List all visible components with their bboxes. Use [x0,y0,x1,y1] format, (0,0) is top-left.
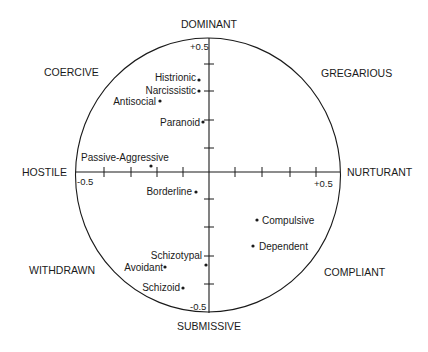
point-histrionic [197,78,200,81]
point-schizoid [181,286,184,289]
circumplex-circle [76,38,341,312]
label-passive-aggressive: Passive-Aggressive [81,152,169,163]
point-antisocial [158,99,161,102]
tick-label-x-max: +0.5 [314,178,333,189]
octant-label-coercive: COERCIVE [44,66,99,78]
octant-label-withdrawn: WITHDRAWN [29,264,95,276]
label-schizoid: Schizoid [142,282,180,293]
label-paranoid: Paranoid [160,117,200,128]
point-paranoid [201,120,204,123]
tick-label-y-min: -0.5 [190,301,206,312]
label-antisocial: Antisocial [113,96,156,107]
axis-label-nurturant: NURTURANT [347,166,413,178]
label-histrionic: Histrionic [155,72,196,83]
label-avoidant: Avoidant [124,262,163,273]
tick-label-y-max: +0.5 [190,41,209,52]
point-borderline [194,190,197,193]
point-passive-aggressive [149,164,152,167]
octant-label-compliant: COMPLIANT [324,266,386,278]
label-compulsive: Compulsive [262,215,315,226]
circumplex-diagram: -0.5 +0.5 +0.5 -0.5 DOMINANT SUBMISSIVE … [0,0,428,352]
axis-label-hostile: HOSTILE [22,166,67,178]
label-schizotypal: Schizotypal [151,250,202,261]
circumplex-svg: -0.5 +0.5 +0.5 -0.5 DOMINANT SUBMISSIVE … [0,0,428,352]
octant-label-gregarious: GREGARIOUS [321,67,392,79]
label-borderline: Borderline [146,186,192,197]
axis-label-submissive: SUBMISSIVE [177,320,241,332]
point-avoidant [163,265,166,268]
point-dependent [251,244,254,247]
axis-label-dominant: DOMINANT [181,18,238,30]
data-points: Histrionic Narcissistic Antisocial Paran… [81,72,315,293]
point-schizotypal [204,263,207,266]
point-narcissistic [197,89,200,92]
label-dependent: Dependent [259,241,308,252]
tick-label-x-min: -0.5 [77,176,93,187]
point-compulsive [255,218,258,221]
label-narcissistic: Narcissistic [145,85,196,96]
